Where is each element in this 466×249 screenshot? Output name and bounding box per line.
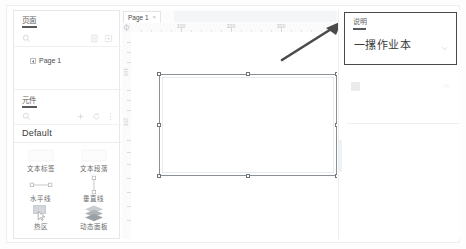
expand-toggle-icon[interactable] (30, 58, 36, 64)
page-tree-label: Page 1 (39, 57, 61, 64)
tabbar-empty-strip (174, 11, 337, 22)
panel-divider (14, 89, 121, 90)
dynamic-panel-icon (67, 203, 120, 223)
description-value[interactable]: 一摞作业本 (354, 38, 411, 52)
resize-handle-se[interactable] (335, 174, 337, 178)
resize-handle-s[interactable] (246, 174, 250, 178)
ruler-label-v200: 200 (123, 118, 128, 126)
ruler-label-v100: 100 (123, 68, 128, 76)
text-paragraph-icon (67, 145, 120, 165)
inspector-color-swatch[interactable] (351, 82, 360, 91)
widget-label: 文本段落 (67, 165, 120, 173)
widget-label: 文本标签 (14, 165, 67, 173)
widget-label: 垂直线 (67, 195, 120, 203)
library-selector[interactable]: Default (22, 128, 52, 138)
widgets-panel-header: 元件 (14, 94, 121, 110)
app-root: 页面 Page 1 元件 (0, 0, 466, 249)
widget-vertical-line[interactable]: 垂直线 (67, 175, 120, 203)
canvas-area: Page 1 × 100 200 300 (122, 10, 337, 239)
pages-panel-title: 页面 (22, 16, 36, 25)
pages-toolbar-divider (14, 46, 121, 47)
resize-handle-e[interactable] (335, 123, 337, 127)
ruler-label-300: 300 (277, 23, 285, 29)
left-sidebar: 页面 Page 1 元件 (13, 10, 120, 239)
resize-handle-sw[interactable] (157, 174, 161, 178)
tab-label: Page 1 (128, 14, 149, 21)
canvas-surface[interactable] (131, 32, 337, 239)
widgets-toolbar (14, 111, 121, 124)
widget-label: 热区 (14, 223, 67, 231)
pages-panel-header: 页面 (14, 14, 121, 30)
widget-grid: 文本标签 文本段落 水平线 (14, 145, 121, 237)
tab-page-1[interactable]: Page 1 × (123, 11, 161, 23)
inspector-panel: 说明 一摞作业本 (338, 10, 460, 239)
shape-inner-border (162, 77, 334, 173)
widget-label: 水平线 (14, 195, 67, 203)
widget-hotspot[interactable]: 热区 (14, 203, 67, 231)
ruler-label-200: 200 (227, 23, 235, 29)
search-icon[interactable] (22, 34, 31, 43)
resize-handle-ne[interactable] (335, 72, 337, 76)
inspector-section-divider (347, 123, 459, 124)
page-tree-item[interactable]: Page 1 (30, 55, 61, 66)
widget-label: 动态面板 (67, 223, 120, 231)
selected-shape[interactable] (159, 74, 337, 176)
hotspot-icon (14, 203, 67, 223)
widget-text-label[interactable]: 文本标签 (14, 145, 67, 173)
add-page-icon[interactable] (104, 34, 113, 43)
description-field-highlight[interactable]: 说明 一摞作业本 (344, 12, 457, 65)
resize-handle-w[interactable] (157, 123, 161, 127)
chevron-down-icon[interactable] (441, 45, 448, 52)
widgets-title-underline (22, 106, 37, 108)
pages-toolbar (14, 33, 121, 46)
inspector-scrollbar[interactable] (339, 140, 342, 172)
ruler-origin-corner[interactable] (122, 23, 131, 32)
widgets-panel-title: 元件 (22, 96, 36, 105)
add-library-icon[interactable] (76, 112, 85, 121)
widget-horizontal-line[interactable]: 水平线 (14, 175, 67, 203)
refresh-library-icon[interactable] (92, 112, 101, 121)
list-view-icon[interactable] (90, 34, 99, 43)
horizontal-line-icon (14, 175, 67, 195)
pages-title-underline (22, 26, 37, 28)
resize-handle-n[interactable] (246, 72, 250, 76)
widgets-toolbar-divider (14, 124, 121, 125)
library-options-icon[interactable] (106, 112, 115, 121)
resize-handle-nw[interactable] (157, 72, 161, 76)
text-label-icon (14, 145, 67, 165)
inspector-title-underline (353, 28, 366, 30)
inspector-options-icon[interactable] (443, 83, 450, 89)
library-divider (14, 142, 121, 143)
vertical-line-icon (67, 175, 120, 195)
close-icon[interactable]: × (153, 14, 157, 20)
search-icon[interactable] (22, 112, 31, 121)
widget-text-paragraph[interactable]: 文本段落 (67, 145, 120, 173)
ruler-label-100: 100 (177, 23, 185, 29)
inspector-title: 说明 (353, 18, 367, 26)
widget-dynamic-panel[interactable]: 动态面板 (67, 203, 120, 231)
